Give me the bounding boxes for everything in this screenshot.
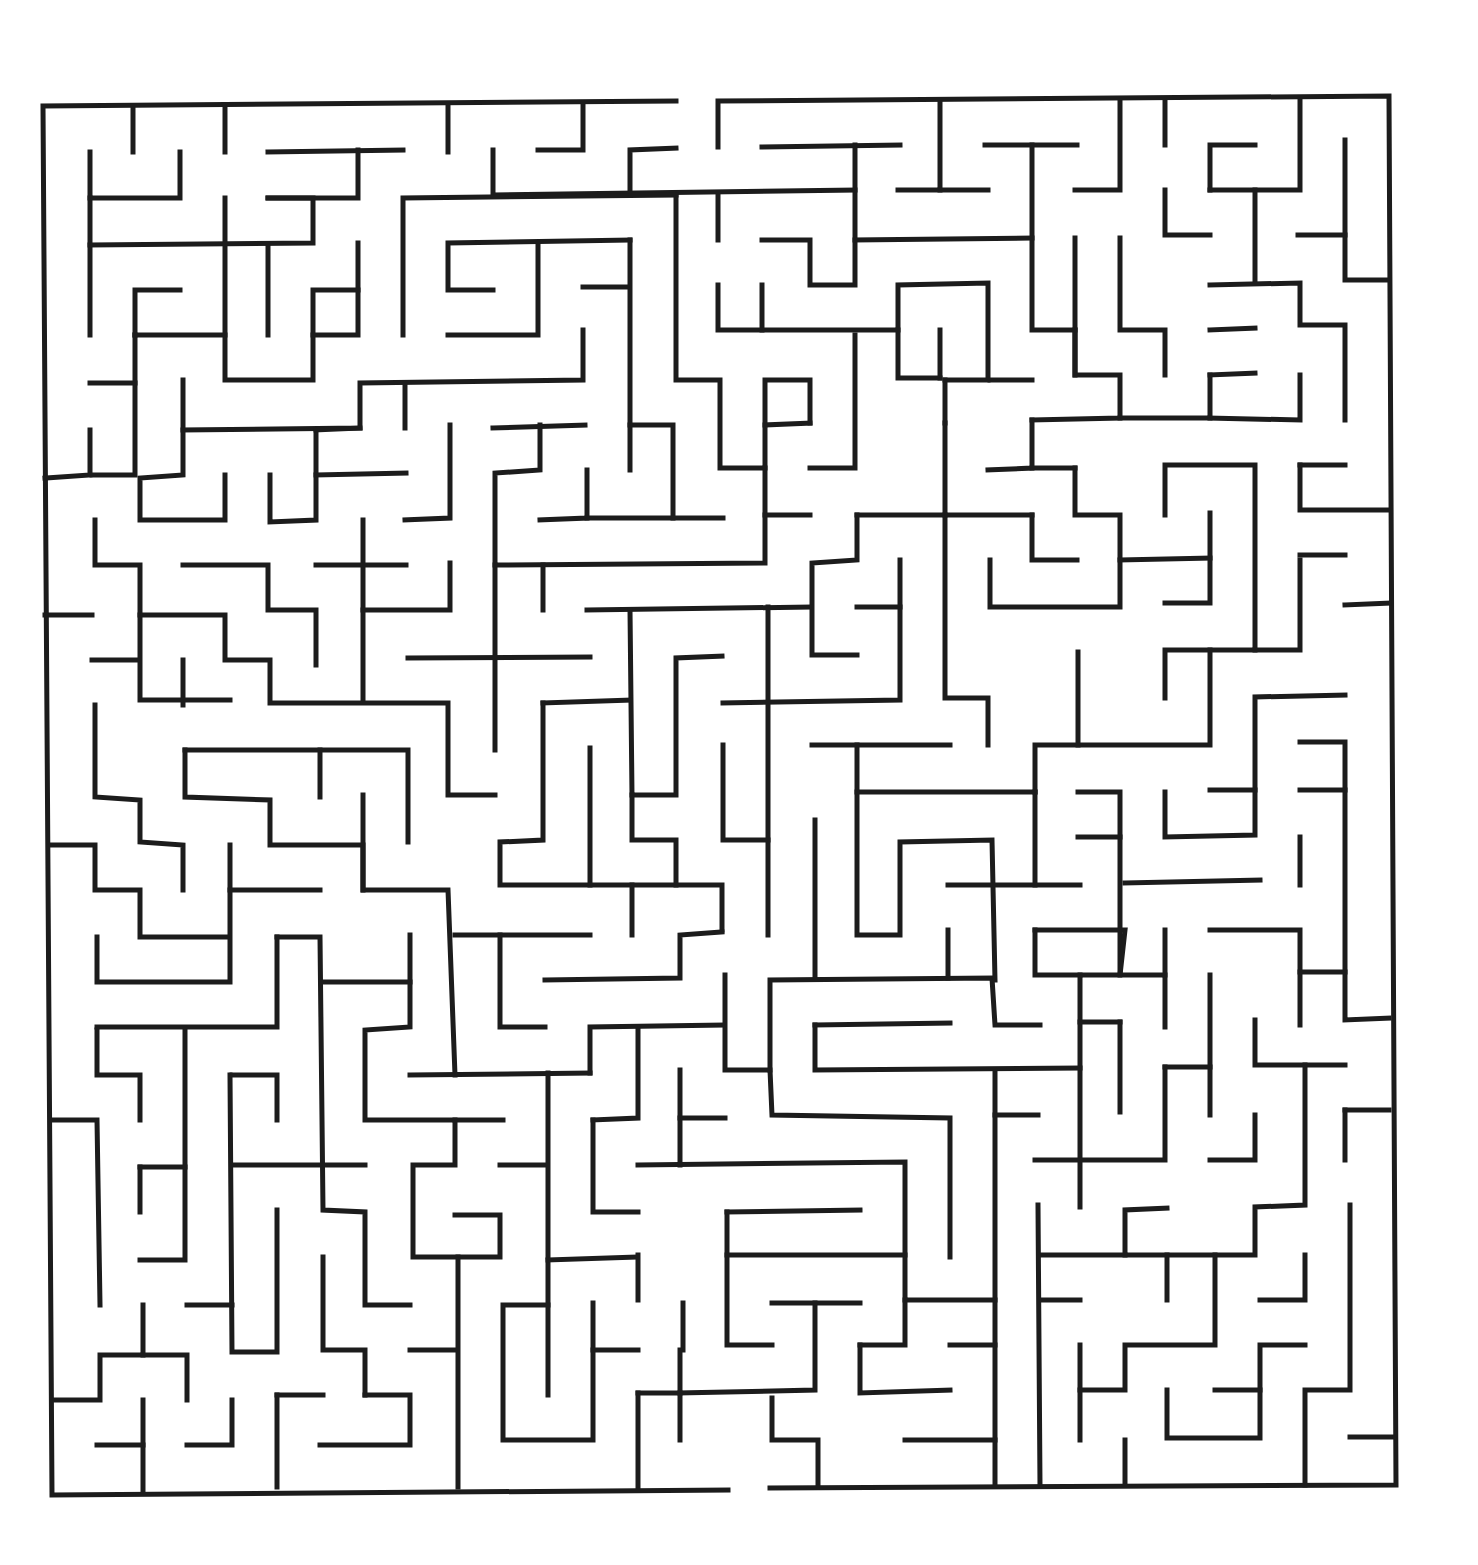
maze-wall: [855, 238, 1032, 240]
maze-wall: [410, 1073, 590, 1075]
maze-wall: [1345, 603, 1389, 605]
maze-wall: [1125, 880, 1260, 883]
maze-puzzle: [0, 0, 1478, 1565]
maze-wall: [762, 145, 900, 147]
maze-wall: [316, 428, 360, 430]
maze-wall: [268, 150, 403, 152]
maze-wall: [408, 657, 590, 658]
maze-wall: [1210, 373, 1255, 375]
maze-wall: [1038, 1205, 1040, 1485]
maze-wall: [815, 1023, 950, 1025]
maze-wall: [1210, 328, 1255, 330]
maze-wall: [587, 607, 810, 610]
maze-exit-gap: [0, 0, 1, 1]
maze-wall: [1120, 558, 1210, 560]
maze-wall: [548, 1257, 635, 1260]
maze-wall: [316, 473, 406, 475]
maze-walls: [0, 0, 1478, 1565]
maze-wall: [727, 1210, 860, 1212]
maze-wall: [543, 700, 630, 703]
